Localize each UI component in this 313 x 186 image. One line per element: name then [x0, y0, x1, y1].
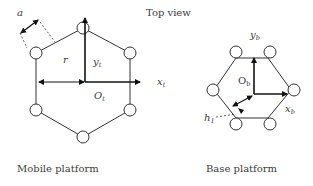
joint-circle: [30, 47, 42, 59]
dimension-a-dash: [40, 22, 55, 42]
dimension-a-dash: [20, 33, 27, 48]
joint-circle: [77, 22, 89, 34]
label-a: a: [17, 7, 23, 18]
platform-diagram: Top view a r yt xt Ot Mobile platform: [0, 0, 313, 186]
joint-circle: [288, 84, 300, 96]
joint-circle: [264, 118, 276, 130]
mobile-platform-caption: Mobile platform: [17, 163, 99, 174]
joint-circle: [230, 46, 242, 58]
label-h1: h1: [204, 112, 215, 125]
label-xb: xb: [285, 103, 295, 116]
mobile-platform: a r yt xt Ot Mobile platform: [17, 7, 166, 174]
joint-circle: [124, 47, 136, 59]
diagram-title: Top view: [146, 7, 191, 18]
label-yt: yt: [92, 56, 102, 69]
joint-circle: [124, 104, 136, 116]
label-r: r: [63, 54, 69, 65]
joint-circle: [77, 131, 89, 143]
joint-circle: [230, 118, 242, 130]
joint-circle: [207, 84, 219, 96]
dimension-a-arrow: [21, 20, 38, 33]
label-ob: Ob: [238, 75, 250, 88]
label-ot: Ot: [94, 90, 105, 103]
label-yb: yb: [249, 29, 260, 42]
base-platform-caption: Base platform: [206, 163, 278, 174]
joint-circle: [30, 104, 42, 116]
joint-circle: [264, 46, 276, 58]
base-platform: yb Ob xb h1 Base platform: [204, 29, 300, 174]
base-platform-outline: [214, 58, 291, 118]
h1-leader-line: [216, 114, 236, 117]
h1-pointer-icon: [238, 108, 244, 114]
label-xt: xt: [157, 76, 166, 89]
radius-arrow: [233, 96, 252, 106]
